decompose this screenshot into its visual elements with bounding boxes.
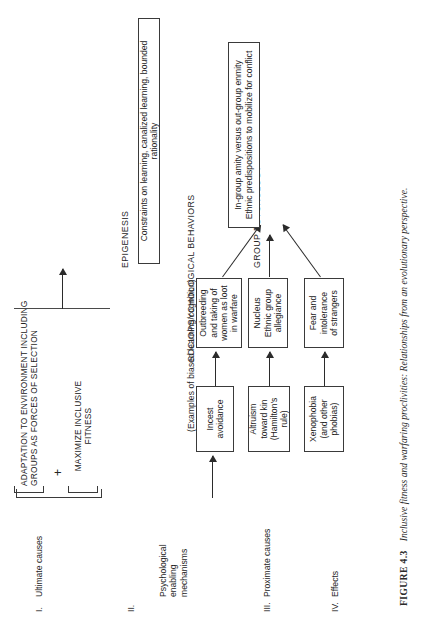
figure-page: I. Ultimate causes II. Psychological ena… [0,0,424,620]
adaptation-to-environment-box: ADAPTATION TO ENVIRONMENT INCLUDING GROU… [16,315,42,489]
behavior-box-outbreeding: Outbreeding and taking of women as loot … [196,278,242,348]
figure-caption-text: Inclusive fitness and warfaring proclivi… [398,188,409,542]
maximize-inclusive-fitness-box: MAXIMIZE INCLUSIVE FITNESS [70,363,96,489]
arrow-xenophobia-to-fear [324,352,325,386]
row-numeral-iv: IV. [330,597,341,612]
row-text-psych-mechanisms: Psychological enabling mechanisms [158,512,190,597]
behavior-box-fear: Fear and intolerance of strangers [304,278,344,348]
fitness-box-bracket [68,486,98,493]
row-numeral-i: I. [34,597,45,612]
row-text-effects: Effects [330,512,341,597]
arrow-ultimate-to-epigenesis [62,269,63,309]
proximate-box-altruism: Altruism toward kin (Hamilton's rule) [248,386,290,452]
row-label-psych-mechanisms: II. Psychological enabling mechanisms [126,512,210,612]
epigenesis-constraints-box: Constraints on learning, canalized learn… [138,18,160,264]
row-label-effects: IV. Effects [330,512,341,612]
row-text-ultimate-causes: Ultimate causes [34,512,45,597]
row-numeral-iii: III. [262,597,273,612]
arrow-altruism-to-nucleus [269,352,270,386]
row-numeral-ii: II. [126,597,137,612]
row-text-proximate-causes: Proximate causes [262,512,273,597]
proximate-box-xenophobia: Xenophobia (and other phobias) [304,386,344,452]
plus-operator: + [52,469,64,476]
diagram-canvas: I. Ultimate causes II. Psychological ena… [0,0,424,620]
arrow-nucleus-to-effects [269,235,270,277]
epigenesis-heading: EPIGENESIS [120,211,131,268]
proximate-box-incest: Incest avoidance [196,386,234,452]
row-label-proximate-causes: III. Proximate causes [262,512,273,612]
arrow-incest-to-outbreeding [215,352,216,386]
adaptation-box-bracket [14,486,44,493]
effects-outcome-box: In-group amity versus out-group enmity E… [228,42,260,228]
behavior-box-nucleus: Nucleus Ethnic group allegiance [248,278,288,348]
figure-caption-label: FIGURE 4.3 [398,550,409,606]
row-label-ultimate-causes: I. Ultimate causes [34,512,45,612]
arrow-fear-to-effects [282,225,320,277]
arrow-epigenesis-to-proximate [212,456,213,498]
figure-caption: FIGURE 4.3Inclusive fitness and warfarin… [398,188,409,606]
